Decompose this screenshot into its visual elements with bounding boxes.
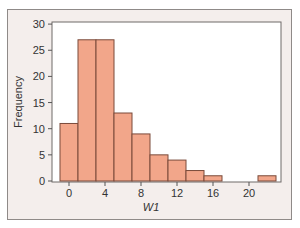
histogram-bar [168, 160, 186, 181]
x-tick-label: 12 [171, 187, 183, 199]
histogram-bar [186, 171, 204, 181]
histogram-bar [204, 176, 222, 181]
y-tick-label: 30 [33, 18, 45, 30]
y-tick-label: 10 [33, 123, 45, 135]
histogram-bar [258, 176, 276, 181]
y-tick-label: 0 [39, 175, 45, 187]
x-axis: 048121620 [66, 182, 255, 199]
x-tick-label: 20 [243, 187, 255, 199]
y-tick-label: 15 [33, 97, 45, 109]
histogram-bar [132, 134, 150, 181]
y-tick-label: 25 [33, 44, 45, 56]
histogram-bar [96, 40, 114, 181]
x-tick-label: 4 [102, 187, 108, 199]
y-tick-label: 5 [39, 149, 45, 161]
histogram-bar [60, 123, 78, 181]
x-tick-label: 8 [138, 187, 144, 199]
y-axis-title: Frequency [12, 76, 24, 128]
x-axis-title: W1 [143, 201, 160, 213]
x-tick-label: 16 [207, 187, 219, 199]
y-axis: 051015202530 [33, 18, 52, 187]
y-tick-label: 20 [33, 70, 45, 82]
histogram-bar [78, 40, 96, 181]
histogram-bar [114, 113, 132, 181]
histogram-bar [150, 155, 168, 181]
x-tick-label: 0 [66, 187, 72, 199]
histogram-chart: 051015202530 048121620 Frequency W1 [0, 0, 300, 228]
